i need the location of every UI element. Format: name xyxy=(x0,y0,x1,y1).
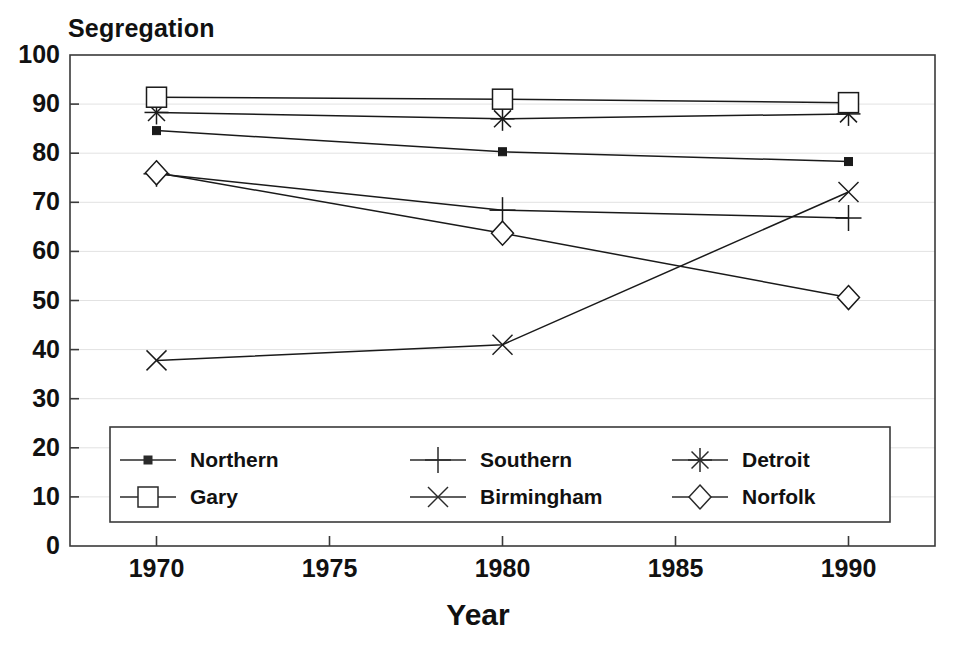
legend-label-birmingham: Birmingham xyxy=(480,485,603,509)
y-tick-label: 90 xyxy=(2,91,60,116)
legend-label-southern: Southern xyxy=(480,448,572,472)
y-tick-label: 10 xyxy=(2,484,60,509)
series-northern xyxy=(153,127,853,166)
x-tick-label: 1975 xyxy=(270,556,390,581)
y-tick-label: 30 xyxy=(2,386,60,411)
x-tick-label: 1990 xyxy=(789,556,909,581)
y-tick-label: 60 xyxy=(2,238,60,263)
chart-title: Segregation xyxy=(68,14,215,43)
y-tick-label: 50 xyxy=(2,288,60,313)
legend-label-gary: Gary xyxy=(190,485,238,509)
legend-label-norfolk: Norfolk xyxy=(742,485,816,509)
y-tick-label: 20 xyxy=(2,435,60,460)
x-tick-label: 1980 xyxy=(443,556,563,581)
series-gary xyxy=(147,87,859,112)
y-tick-label: 100 xyxy=(2,42,60,67)
y-tick-label: 40 xyxy=(2,337,60,362)
legend-label-northern: Northern xyxy=(190,448,279,472)
segregation-line-chart: Segregation 0102030405060708090100 19701… xyxy=(0,0,956,650)
legend-label-detroit: Detroit xyxy=(742,448,810,472)
y-tick-label: 0 xyxy=(2,533,60,558)
plot-area xyxy=(0,0,956,650)
data-series-layer xyxy=(144,87,862,370)
y-tick-label: 70 xyxy=(2,189,60,214)
y-tick-label: 80 xyxy=(2,140,60,165)
x-tick-label: 1970 xyxy=(97,556,217,581)
x-axis-label: Year xyxy=(0,598,956,632)
x-tick-label: 1985 xyxy=(616,556,736,581)
